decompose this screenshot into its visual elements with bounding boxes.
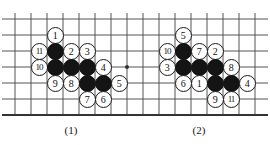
go-diagram-figure: 11123104985765107238614911 (1)(2) <box>0 0 270 145</box>
caption-diagram-2: (2) <box>193 124 206 136</box>
caption-diagram-1: (1) <box>65 124 78 136</box>
diagram-caption-layer: (1)(2) <box>0 0 270 145</box>
